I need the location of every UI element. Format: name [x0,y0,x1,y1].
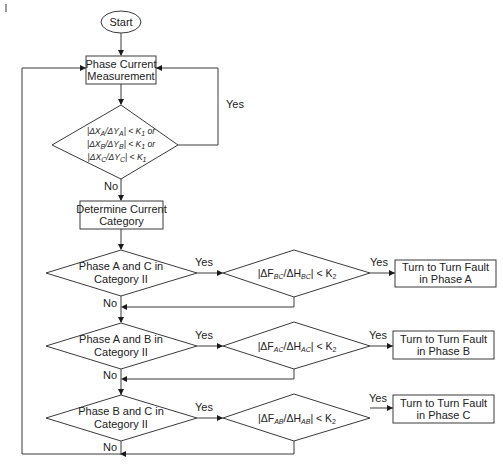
decision-ab-yes-label: Yes [195,329,213,341]
decision-ac-diamond: Phase A and C in Category II [46,250,197,296]
decision-bc-line1: Phase B and C in [78,405,164,417]
measurement-line2: Measurement [87,70,154,82]
decision-bc-yes-label: Yes [195,401,213,413]
ratio-ab-text: |ΔFAB/ΔHAB| < K2 [258,412,336,425]
arrow-icon [389,270,395,276]
ratio-ab-diamond: |ΔFAB/ΔHAB| < K2 [223,394,370,441]
decision-ab-line2: Category II [94,346,148,358]
arrow-icon [121,376,127,382]
arrow-icon [118,389,124,395]
arrow-icon [118,50,124,56]
arrow-icon [121,304,127,310]
arrow-icon [387,405,393,411]
ratio-ac-diamond: |ΔFAC/ΔHAC| < K2 [223,322,370,369]
arrow-icon [118,244,124,250]
check1-no-label: No [104,180,118,192]
result-c-line2: in Phase C [417,409,471,421]
check1-yes-label: Yes [226,98,244,110]
threshold-check-diamond: |ΔXA/ΔYA| < K1 or |ΔXB/ΔYB| < K1 or |ΔXC… [52,105,178,179]
decision-ab-line1: Phase A and B in [79,333,163,345]
result-a-line2: in Phase A [419,273,472,285]
start-label: Start [109,16,132,28]
categorize-line2: Category [99,215,144,227]
condition-c: |ΔXC/ΔYC| < K1 [88,152,147,163]
result-phase-b-box: Turn to Turn Fault in Phase B [393,331,494,359]
ratio-bc-yes-label: Yes [370,256,388,268]
arrow-icon [118,317,124,323]
decision-ac-line2: Category II [94,273,148,285]
result-a-line1: Turn to Turn Fault [402,261,489,273]
decision-bc-line2: Category II [94,418,148,430]
decision-ac-yes-label: Yes [195,256,213,268]
decision-ac-no-label: No [103,297,117,309]
decision-ac-line1: Phase A and C in [79,260,163,272]
result-phase-a-box: Turn to Turn Fault in Phase A [395,260,496,287]
arrow-icon [156,65,162,71]
decision-ab-no-label: No [103,369,117,381]
arrow-icon [118,195,124,201]
categorize-line1: Determine Current [76,203,166,215]
arrow-icon [387,343,393,349]
result-phase-c-box: Turn to Turn Fault in Phase C [393,395,494,423]
decision-ab-diamond: Phase A and B in Category II [46,323,197,369]
decision-bc-diamond: Phase B and C in Category II [46,395,197,441]
ratio-bc-diamond: |ΔFBC/ΔHBC| < K2 [223,250,370,297]
ratio-ac-yes-label: Yes [369,329,387,341]
result-b-line2: in Phase B [417,345,470,357]
decision-bc-no-label: No [103,441,117,453]
categorize-box: Determine Current Category [76,201,166,229]
result-b-line1: Turn to Turn Fault [400,333,487,345]
ratio-ac-text: |ΔFAC/ΔHAC| < K2 [258,340,337,353]
flowchart: Start Phase Current Measurement |ΔXA/ΔYA… [0,0,503,473]
result-c-line1: Turn to Turn Fault [400,397,487,409]
ratio-bc-text: |ΔFBC/ΔHBC| < K2 [258,267,337,280]
measurement-box: Phase Current Measurement [86,56,157,84]
arrow-icon [118,99,124,105]
ratio-ab-yes-label: Yes [369,392,387,404]
measurement-line1: Phase Current [86,58,157,70]
start-node: Start [101,11,141,33]
